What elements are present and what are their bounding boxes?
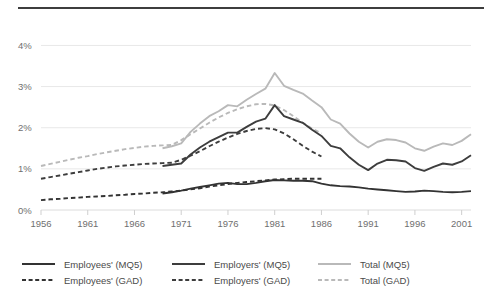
line-chart-plot: 0%1%2%3%4%195619611966197119761981198619… [0, 12, 492, 298]
x-tick-label-1971: 1971 [171, 218, 192, 229]
chart-figure: 0%1%2%3%4%195619611966197119761981198619… [0, 0, 492, 298]
header-rule [18, 7, 484, 9]
legend-label-2: Employers' (MQ5) [214, 259, 290, 270]
x-tick-label-1956: 1956 [30, 218, 51, 229]
y-tick-label-1%: 1% [18, 163, 32, 174]
legend-label-1: Employees' (GAD) [64, 275, 142, 286]
y-tick-label-0%: 0% [18, 205, 32, 216]
x-tick-label-1991: 1991 [358, 218, 379, 229]
y-tick-label-3%: 3% [18, 81, 32, 92]
legend-label-0: Employees' (MQ5) [64, 259, 142, 270]
legend-label-5: Total (GAD) [360, 275, 410, 286]
x-tick-label-2001: 2001 [451, 218, 472, 229]
series-line-employees-gad [41, 179, 321, 200]
caption-fragment [20, 0, 140, 5]
x-tick-label-1981: 1981 [264, 218, 285, 229]
y-tick-label-2%: 2% [18, 122, 32, 133]
series-line-total-mq5 [163, 73, 471, 151]
x-tick-label-1976: 1976 [217, 218, 238, 229]
series-line-total-gad [41, 104, 321, 166]
x-tick-label-1986: 1986 [311, 218, 332, 229]
x-tick-label-1966: 1966 [124, 218, 145, 229]
series-line-employers-mq5 [163, 105, 471, 171]
chart-svg: 0%1%2%3%4%195619611966197119761981198619… [0, 12, 492, 298]
series-line-employers-gad [41, 128, 321, 179]
legend-label-3: Employers' (GAD) [214, 275, 290, 286]
y-tick-label-4%: 4% [18, 40, 32, 51]
legend-label-4: Total (MQ5) [360, 259, 410, 270]
x-tick-label-1961: 1961 [77, 218, 98, 229]
x-tick-label-1996: 1996 [404, 218, 425, 229]
